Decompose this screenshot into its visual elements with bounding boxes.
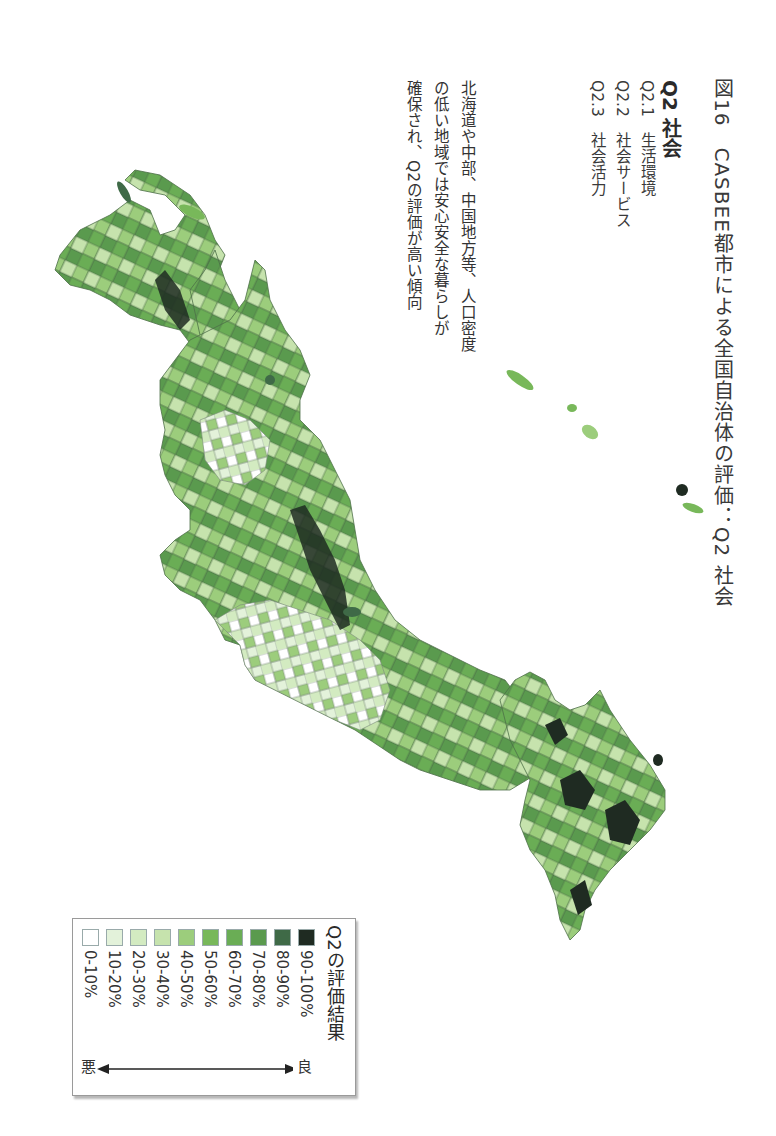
legend-label: 10-20% [105, 950, 123, 1008]
island-rishiri [653, 754, 663, 766]
legend-label: 90-100% [297, 950, 315, 1017]
map-legend: Q2の評価結果 90-100% 80-90% 70-80% 60-70% 50-… [72, 918, 356, 1096]
legend-swatch [250, 929, 267, 946]
island-izu [265, 375, 275, 385]
legend-class-40-50: 40-50% [177, 929, 195, 1017]
legend-swatch [154, 929, 171, 946]
legend-class-0-10: 0-10% [81, 929, 99, 1017]
legend-label: 20-30% [129, 950, 147, 1008]
section-heading: Q2 社会 [656, 80, 685, 158]
legend-classes: 90-100% 80-90% 70-80% 60-70% 50-60% 40-5… [81, 929, 315, 1017]
legend-class-70-80: 70-80% [249, 929, 267, 1017]
sub-item-label: 社会活力 [588, 132, 606, 196]
legend-label: 60-70% [225, 950, 243, 1008]
legend-swatch [274, 929, 291, 946]
figure-title: 図16 CASBEE都市による全国自治体の評価：Q2 社会 [708, 78, 737, 607]
legend-class-60-70: 60-70% [225, 929, 243, 1017]
sub-item-q2-2: Q2.2 社会サービス [611, 80, 633, 228]
island-sado [343, 607, 361, 617]
caption-line: の低い地域では安心安全な暮らしが [429, 80, 451, 352]
island-okinawa-dark [676, 484, 688, 496]
caption-line: 北海道や中部、中国地方等、人口密度 [456, 80, 478, 352]
legend-swatch [298, 929, 315, 946]
island-okinawa-4 [681, 500, 704, 515]
sub-item-code: Q2.2 [613, 80, 631, 117]
legend-class-20-30: 20-30% [129, 929, 147, 1017]
island-okinawa-3 [579, 422, 601, 442]
legend-class-10-20: 10-20% [105, 929, 123, 1017]
legend-label: 50-60% [201, 950, 219, 1008]
legend-class-50-60: 50-60% [201, 929, 219, 1017]
legend-label: 70-80% [249, 950, 267, 1008]
double-arrow-icon [93, 1039, 293, 1079]
caption-line: 確保され、Q2の評価が高い傾向 [402, 80, 424, 352]
legend-class-30-40: 30-40% [153, 929, 171, 1017]
legend-swatch [178, 929, 195, 946]
legend-label: 30-40% [153, 950, 171, 1008]
sub-item-q2-1: Q2.1 生活環境 [636, 80, 658, 228]
sub-items-list: Q2.1 生活環境 Q2.2 社会サービス Q2.3 社会活力 [586, 80, 658, 228]
legend-bad-label: 悪 [77, 1059, 98, 1074]
sub-item-label: 生活環境 [638, 132, 656, 196]
legend-class-80-90: 80-90% [273, 929, 291, 1017]
legend-label: 40-50% [177, 950, 195, 1008]
sub-item-code: Q2.1 [638, 80, 656, 117]
sub-item-code: Q2.3 [588, 80, 606, 117]
legend-swatch [130, 929, 147, 946]
island-okinawa-2 [567, 404, 577, 412]
island-okinawa-1 [504, 367, 536, 394]
legend-label: 0-10% [81, 950, 99, 998]
legend-class-90-100: 90-100% [297, 929, 315, 1017]
legend-label: 80-90% [273, 950, 291, 1008]
legend-swatch [82, 929, 99, 946]
legend-swatch [106, 929, 123, 946]
figure-caption: 北海道や中部、中国地方等、人口密度 の低い地域では安心安全な暮らしが 確保され、… [402, 80, 478, 352]
legend-title: Q2の評価結果 [321, 925, 347, 1041]
sub-item-q2-3: Q2.3 社会活力 [586, 80, 608, 228]
legend-swatch [202, 929, 219, 946]
legend-good-label: 良 [293, 1059, 314, 1074]
sub-item-label: 社会サービス [613, 132, 631, 228]
legend-swatch [226, 929, 243, 946]
